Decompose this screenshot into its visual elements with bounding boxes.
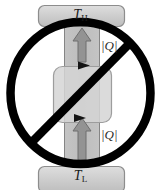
hot-reservoir-label-symbol: T [73,7,81,22]
lower-heat-magnitude-label: |Q| [101,127,118,143]
thermodynamics-forbidden-process-figure: TH TL |Q| |Q| [0,0,161,190]
cold-reservoir-label-symbol: T [74,168,82,183]
upper-heat-magnitude-label: |Q| [101,38,118,54]
hot-reservoir-label-subscript: H [81,13,88,23]
cold-reservoir-label-subscript: L [82,174,88,184]
hot-reservoir-label: TH [0,7,161,23]
figure-canvas [0,0,161,190]
cold-reservoir-label: TL [0,168,161,184]
